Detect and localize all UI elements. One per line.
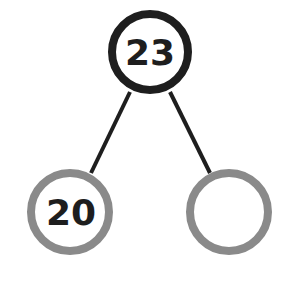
whole-value: 23: [125, 32, 175, 73]
connector-right: [170, 92, 210, 173]
part-right-circle[interactable]: [190, 173, 268, 251]
connector-left: [91, 92, 130, 173]
part-left-circle: 20: [31, 173, 109, 251]
number-bond-diagram: 23 20: [0, 0, 284, 282]
whole-circle: 23: [112, 14, 188, 90]
part-left-value: 20: [46, 192, 96, 233]
